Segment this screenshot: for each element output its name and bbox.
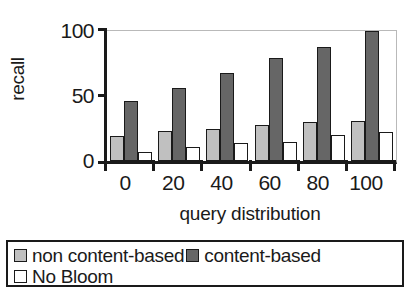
y-axis-title: recall xyxy=(7,44,29,114)
bar-no-bloom-40 xyxy=(234,143,248,161)
recall-bar-chart: recall 100 50 0 020406080100 query distr… xyxy=(0,0,415,292)
legend-label-no-bloom: No Bloom xyxy=(32,267,113,286)
light-gray-swatch-icon xyxy=(14,249,27,262)
bar-content-based-40 xyxy=(220,73,234,161)
bar-non-content-based-100 xyxy=(351,121,365,161)
y-tick-label-0: 0 xyxy=(38,150,94,171)
legend-label-content-based: content-based xyxy=(204,246,321,265)
bar-no-bloom-60 xyxy=(283,142,297,162)
bar-group-80 xyxy=(300,31,348,161)
x-tick-mark-40 xyxy=(200,160,203,171)
x-axis-title: query distribution xyxy=(104,203,396,225)
bar-group-0 xyxy=(107,31,155,161)
legend-row-2: No Bloom xyxy=(14,266,398,287)
bar-content-based-0 xyxy=(124,101,138,161)
legend-entry-no-bloom: No Bloom xyxy=(14,267,113,286)
bar-content-based-100 xyxy=(365,31,379,161)
legend-label-non-content-based: non content-based xyxy=(32,246,184,265)
bar-no-bloom-100 xyxy=(379,132,393,161)
y-tick-label-100: 100 xyxy=(38,20,94,41)
bar-content-based-60 xyxy=(269,58,283,161)
x-tick-mark-80 xyxy=(297,160,300,171)
x-axis-tick-labels: 020406080100 xyxy=(104,172,396,198)
bar-group-20 xyxy=(155,31,203,161)
legend-entry-content-based: content-based xyxy=(186,246,321,265)
x-tick-mark-100 xyxy=(345,160,348,171)
legend-row-1: non content-based content-based xyxy=(14,245,398,266)
bar-non-content-based-40 xyxy=(206,129,220,162)
x-axis-tick-marks xyxy=(104,160,396,171)
plot-area xyxy=(104,30,397,164)
dark-gray-swatch-icon xyxy=(186,249,199,262)
bar-group-60 xyxy=(252,31,300,161)
bar-group-100 xyxy=(348,31,396,161)
x-tick-mark-60 xyxy=(249,160,252,171)
white-swatch-icon xyxy=(14,270,27,283)
bar-non-content-based-80 xyxy=(303,122,317,161)
bar-non-content-based-0 xyxy=(110,136,124,161)
bar-group-40 xyxy=(203,31,251,161)
x-tick-label-100: 100 xyxy=(336,172,396,193)
x-tick-mark-20 xyxy=(152,160,155,171)
bar-no-bloom-80 xyxy=(331,135,345,161)
chart-legend: non content-based content-based No Bloom xyxy=(6,240,404,287)
bar-non-content-based-20 xyxy=(158,131,172,161)
y-tick-mark-100 xyxy=(98,28,107,31)
bar-no-bloom-20 xyxy=(186,147,200,161)
bar-groups xyxy=(107,31,396,161)
x-tick-mark-end xyxy=(393,160,396,171)
y-tick-label-50: 50 xyxy=(38,85,94,106)
bar-content-based-80 xyxy=(317,47,331,161)
bar-non-content-based-60 xyxy=(255,125,269,161)
y-tick-mark-50 xyxy=(98,94,107,97)
x-tick-mark-0 xyxy=(104,160,107,171)
bar-content-based-20 xyxy=(172,88,186,161)
legend-entry-non-content-based: non content-based xyxy=(14,246,184,265)
